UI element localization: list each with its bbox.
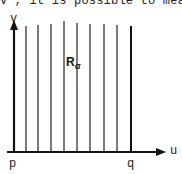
point-q-label: q — [127, 157, 134, 171]
u-axis-arrow-icon — [156, 148, 166, 156]
region-diagram — [0, 0, 182, 174]
u-axis-label: u — [170, 144, 177, 158]
vertical-lines — [26, 21, 117, 152]
v-axis-label: v — [10, 12, 17, 26]
point-p-label: p — [9, 157, 16, 171]
region-label-subscript: σ — [75, 61, 81, 71]
region-label: Rσ — [66, 55, 81, 71]
region-label-main: R — [66, 55, 75, 69]
